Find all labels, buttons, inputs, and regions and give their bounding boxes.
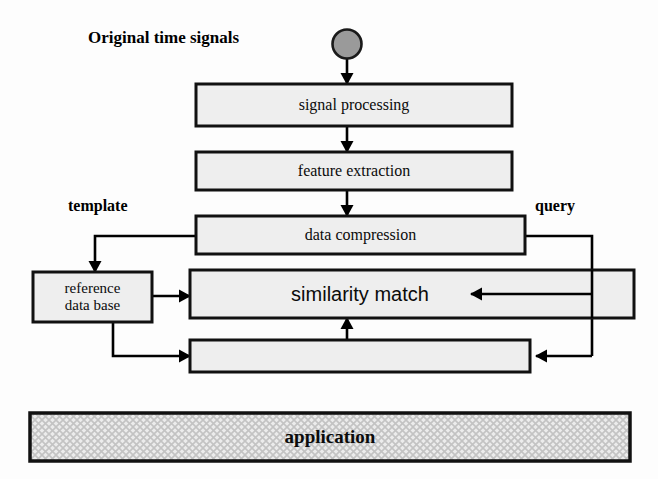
node-feature-extraction[interactable]	[196, 152, 512, 190]
page-title: Original time signals	[88, 28, 239, 48]
node-application[interactable]	[30, 413, 630, 461]
node-unlabeled-stage[interactable]	[190, 340, 530, 372]
node-signal-processing[interactable]	[196, 84, 512, 126]
label-template: template	[68, 197, 128, 215]
node-data-compression[interactable]	[196, 216, 525, 254]
diagram-boxes	[0, 0, 658, 479]
source-node-circle[interactable]	[333, 30, 362, 59]
node-reference-data-base[interactable]	[33, 272, 152, 322]
flowchart-diagram: Original time signals template query sig…	[0, 0, 658, 479]
label-query: query	[535, 197, 575, 215]
